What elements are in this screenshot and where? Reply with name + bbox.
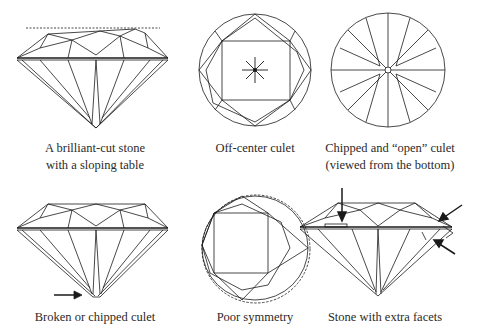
stone-extra-facets: [300, 203, 453, 296]
culet-star: [242, 57, 268, 83]
open-culet: [385, 67, 391, 73]
arrow-icon: [338, 188, 346, 221]
stone-sloping-table: [17, 28, 168, 128]
arrow-icon: [54, 291, 82, 299]
caption-line: Off-center culet: [180, 140, 330, 157]
caption-sloping-table: A brilliant-cut stone with a sloping tab…: [0, 140, 190, 174]
stone-poor-symmetry: [202, 195, 310, 303]
stone-open-culet: [331, 13, 445, 127]
arrow-icon: [434, 240, 455, 254]
caption-line: with a sloping table: [0, 157, 190, 174]
ideal-outline-dashed: [202, 195, 310, 303]
caption-broken-culet: Broken or chipped culet: [0, 309, 190, 326]
stone-broken-culet: [17, 204, 168, 297]
caption-line: A brilliant-cut stone: [0, 140, 190, 157]
caption-extra-facets: Stone with extra facets: [300, 309, 470, 326]
caption-line: Stone with extra facets: [300, 309, 470, 326]
stone-off-center-culet: [199, 14, 311, 126]
arrow-icon: [439, 205, 462, 221]
caption-line: Chipped and “open” culet: [310, 140, 470, 157]
caption-line: (viewed from the bottom): [310, 157, 470, 174]
caption-line: Broken or chipped culet: [0, 309, 190, 326]
caption-open-culet: Chipped and “open” culet (viewed from th…: [310, 140, 470, 174]
caption-off-center-culet: Off-center culet: [180, 140, 330, 157]
